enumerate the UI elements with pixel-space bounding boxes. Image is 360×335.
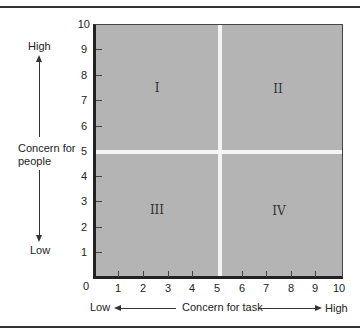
y-axis-high-label: High — [28, 40, 51, 52]
x-tick — [315, 271, 316, 277]
y-tick-label: 7 — [81, 94, 87, 106]
x-tick — [168, 271, 169, 277]
y-tick — [96, 49, 102, 50]
bottom-rule — [0, 326, 360, 328]
y-tick — [96, 227, 102, 228]
x-tick — [118, 271, 119, 277]
x-tick-label: 6 — [239, 282, 245, 294]
y-tick — [96, 100, 102, 101]
x-tick-label: 8 — [288, 282, 294, 294]
y-tick — [96, 75, 102, 76]
x-tick-label: 4 — [189, 282, 195, 294]
arrow-down-icon — [36, 235, 42, 242]
x-axis-title: Concern for task — [182, 301, 263, 313]
x-axis-low-label: Low — [90, 301, 110, 313]
x-tick — [291, 271, 292, 277]
y-tick — [96, 176, 102, 177]
quadrant-label-1: I — [155, 81, 160, 95]
x-tick-label: 9 — [312, 282, 318, 294]
quadrant-label-4: IV — [272, 204, 285, 218]
x-tick-label: 2 — [140, 282, 146, 294]
arrow-right-icon — [315, 305, 322, 311]
y-tick-label: 4 — [81, 170, 87, 182]
plot-area — [93, 24, 343, 279]
y-tick — [96, 201, 102, 202]
x-tick — [192, 271, 193, 277]
y-tick — [96, 252, 102, 253]
x-tick-label: 7 — [263, 282, 269, 294]
y-tick-label: 6 — [81, 120, 87, 132]
y-tick — [96, 126, 102, 127]
top-rule — [0, 6, 360, 8]
y-tick-label: 10 — [78, 18, 90, 30]
y-axis-title-line1: Concern for — [18, 142, 75, 154]
y-tick-label: 8 — [81, 69, 87, 81]
y-axis-low-label: Low — [30, 244, 50, 256]
y-tick-label: 1 — [81, 246, 87, 258]
y-tick-label: 5 — [81, 145, 87, 157]
x-tick — [143, 271, 144, 277]
y-tick-label: 9 — [81, 43, 87, 55]
x-tick-label: 3 — [165, 282, 171, 294]
y-axis-arrow-down-line — [39, 170, 40, 236]
y-tick-label: 3 — [81, 195, 87, 207]
x-tick-label: 1 — [115, 282, 121, 294]
x-tick — [266, 271, 267, 277]
x-axis-arrow-right-line — [258, 308, 316, 309]
y-axis-title-line2: people — [18, 155, 51, 167]
horizontal-divider — [96, 150, 342, 154]
origin-label: 0 — [83, 280, 89, 292]
quadrant-label-2: II — [273, 82, 282, 96]
x-tick-label: 5 — [214, 282, 220, 294]
quadrant-label-3: III — [150, 203, 164, 217]
x-axis-arrow-left-line — [120, 308, 176, 309]
y-axis-arrow-up-line — [39, 60, 40, 137]
x-axis-high-label: High — [325, 302, 348, 314]
x-tick — [242, 271, 243, 277]
y-tick-label: 2 — [81, 221, 87, 233]
x-tick-label: 10 — [333, 282, 345, 294]
